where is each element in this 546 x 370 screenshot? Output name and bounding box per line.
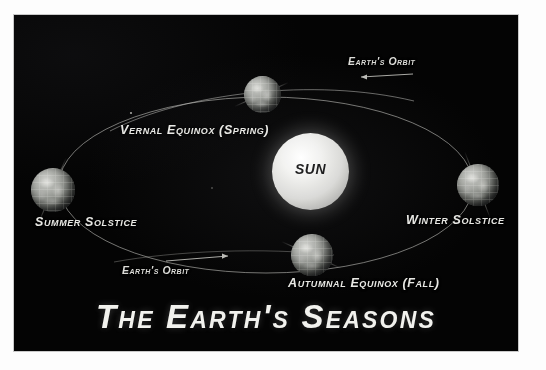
label-orbit-bottom: Earth's Orbit xyxy=(122,264,189,276)
earth-sphere xyxy=(244,76,281,113)
orbit-arrow-top xyxy=(361,74,413,80)
orbit-tick-left xyxy=(130,112,132,114)
photo-plate: SUN Vernal Equinox (Spring) Summer Solst… xyxy=(14,15,518,351)
earth-sphere xyxy=(291,234,333,276)
earth-autumnal-equinox xyxy=(286,229,338,281)
earth-summer-solstice xyxy=(26,163,80,217)
label-orbit-top: Earth's Orbit xyxy=(348,55,415,67)
earth-sphere xyxy=(457,164,499,206)
label-vernal-equinox: Vernal Equinox (Spring) xyxy=(120,123,269,137)
page-title: The Earth's Seasons xyxy=(14,298,518,336)
earth-vernal-equinox xyxy=(240,72,285,117)
label-autumnal-equinox: Autumnal Equinox (Fall) xyxy=(288,276,440,290)
seasons-poster: SUN Vernal Equinox (Spring) Summer Solst… xyxy=(0,0,546,370)
sun-label: SUN xyxy=(272,161,349,177)
label-winter-solstice: Winter Solstice xyxy=(406,213,505,227)
earth-sphere xyxy=(31,168,75,212)
orbit-arrow-bottom xyxy=(166,254,228,261)
orbit-tick-right xyxy=(211,187,213,189)
earth-winter-solstice xyxy=(451,158,505,212)
label-summer-solstice: Summer Solstice xyxy=(35,215,137,229)
sun-sphere: SUN xyxy=(272,133,349,210)
